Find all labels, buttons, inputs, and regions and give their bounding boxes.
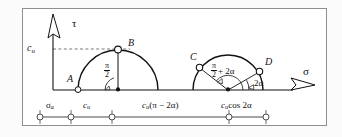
point-d-marker xyxy=(256,68,262,74)
tau-axis-arrowhead xyxy=(48,14,60,38)
cu-axis-tick-label: cu xyxy=(27,43,35,55)
dimension-tick-3 xyxy=(226,110,232,124)
dimension-cu-pi-tail: (π − 2α) xyxy=(149,100,178,110)
angle-label-pi-over-2-plus-2alpha: π 2 + 2α xyxy=(211,62,235,79)
dimension-tick-0 xyxy=(37,110,43,124)
dimension-label-cu: cu xyxy=(83,101,90,111)
angle-arc-2alpha xyxy=(247,80,249,90)
angle-pi-over-2-fraction: π 2 xyxy=(104,62,110,79)
sigma-axis-arrowhead xyxy=(291,78,315,90)
angle-pi-over-2-plus-2alpha-fraction: π 2 xyxy=(211,62,217,79)
angle-pi-over-2-plus-2alpha-suffix: + 2α xyxy=(218,66,235,76)
point-b-marker xyxy=(115,46,122,53)
angle-pi-over-2-denominator: 2 xyxy=(104,71,110,79)
dimension-tick-4 xyxy=(263,110,269,124)
tau-axis-label: τ xyxy=(72,18,76,29)
dimension-tick-2 xyxy=(109,110,115,124)
dimension-cu-sub: u xyxy=(87,103,90,110)
angle-label-2alpha: 2α xyxy=(254,79,263,88)
cu-axis-tick-sub: u xyxy=(31,47,35,55)
circle-2-center-dot xyxy=(226,87,230,91)
point-c-marker xyxy=(196,64,202,70)
dimension-label-cu-cos-2alpha: cucos 2α xyxy=(221,101,252,111)
sigma-axis-label: σ xyxy=(303,66,309,77)
dimension-label-cu-pi-minus-2alpha: cu(π − 2α) xyxy=(142,101,179,111)
circle-1-center-dot xyxy=(116,87,120,91)
angle-pi-over-2-plus-2alpha-denominator: 2 xyxy=(211,71,217,79)
dimension-tick-1 xyxy=(68,110,74,124)
point-a-marker xyxy=(75,87,81,93)
figure-drawing-canvas xyxy=(0,0,342,137)
point-d-label: D xyxy=(265,57,272,67)
dimension-sigma-a-sub: a xyxy=(51,103,54,110)
point-b-label: B xyxy=(128,38,134,48)
dimension-label-sigma-a: σa xyxy=(46,101,54,111)
angle-label-pi-over-2: π 2 xyxy=(104,62,110,79)
mohr-circle-figure: τ σ cu A B C D π 2 π 2 + 2α 2α σa cu cu(… xyxy=(0,0,342,137)
point-a-label: A xyxy=(67,74,73,84)
dimension-cu-cos-tail: cos 2α xyxy=(228,100,251,110)
point-c-label: C xyxy=(190,52,197,62)
angle-marker-pi-over-2-arrowhead xyxy=(106,86,111,90)
